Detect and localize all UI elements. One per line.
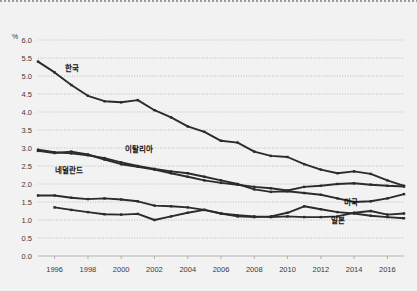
series-marker <box>386 179 388 181</box>
series-marker <box>220 212 222 214</box>
x-axis-tick-label: 1996 <box>46 265 63 274</box>
y-axis-tick-label: 1.0 <box>22 216 32 225</box>
series-marker <box>220 182 222 184</box>
series-label-japan: 일본 <box>331 215 345 225</box>
series-marker <box>203 131 205 133</box>
series-marker <box>220 140 222 142</box>
x-axis-tick-label: 2008 <box>246 265 263 274</box>
series-marker <box>187 125 189 127</box>
series-line <box>38 151 404 191</box>
series-marker <box>303 216 305 218</box>
series-marker <box>170 205 172 207</box>
series-line <box>38 150 404 202</box>
series-marker <box>103 158 105 160</box>
y-axis-tick-label: 5.0 <box>22 72 32 81</box>
line-chart-plot: 0.00.51.01.52.02.53.03.54.04.55.05.56.01… <box>0 0 417 291</box>
y-axis-tick-label: 6.0 <box>22 36 32 45</box>
chart-root: % 0.00.51.01.52.02.53.03.54.04.55.05.56.… <box>0 0 417 291</box>
series-marker <box>137 166 139 168</box>
series-marker <box>203 176 205 178</box>
series-marker <box>336 211 338 213</box>
series-marker <box>286 189 288 191</box>
series-marker <box>53 206 55 208</box>
series-marker <box>303 192 305 194</box>
series-marker <box>187 172 189 174</box>
x-axis-tick-label: 2014 <box>346 265 363 274</box>
series-marker <box>370 173 372 175</box>
series-marker <box>386 185 388 187</box>
series-marker <box>320 216 322 218</box>
series-marker <box>203 209 205 211</box>
series-label-united-states: 미국 <box>344 197 358 207</box>
x-axis-tick-label: 2016 <box>379 265 396 274</box>
series-marker <box>187 212 189 214</box>
series-marker <box>137 99 139 101</box>
series-marker <box>120 198 122 200</box>
series-marker <box>270 187 272 189</box>
series-marker <box>370 215 372 217</box>
series-marker <box>103 213 105 215</box>
series-marker <box>87 198 89 200</box>
series-marker <box>70 84 72 86</box>
series-line <box>38 62 404 186</box>
x-axis-tick-label: 2012 <box>312 265 329 274</box>
series-marker <box>370 184 372 186</box>
series-marker <box>320 194 322 196</box>
series-marker <box>403 212 405 214</box>
series-label-korea: 한국 <box>65 63 79 73</box>
series-marker <box>353 182 355 184</box>
series-marker <box>353 212 355 214</box>
series-marker <box>403 185 405 187</box>
y-axis-tick-label: 4.0 <box>22 108 32 117</box>
series-marker <box>87 153 89 155</box>
series-marker <box>370 200 372 202</box>
y-axis-tick-label: 2.5 <box>22 162 32 171</box>
series-marker <box>320 208 322 210</box>
series-marker <box>353 170 355 172</box>
series-marker <box>53 194 55 196</box>
series-marker <box>120 213 122 215</box>
series-marker <box>103 197 105 199</box>
y-axis-tick-label: 3.0 <box>22 144 32 153</box>
series-marker <box>303 186 305 188</box>
series-marker <box>253 150 255 152</box>
series-marker <box>153 168 155 170</box>
series-marker <box>270 191 272 193</box>
series-label-netherlands: 네덜란드 <box>55 165 83 175</box>
series-marker <box>37 60 39 62</box>
series-marker <box>137 213 139 215</box>
series-marker <box>253 216 255 218</box>
x-axis-tick-label: 2004 <box>179 265 196 274</box>
series-marker <box>153 204 155 206</box>
series-marker <box>386 216 388 218</box>
series-marker <box>320 185 322 187</box>
series-marker <box>87 211 89 213</box>
series-marker <box>370 210 372 212</box>
series-marker <box>203 179 205 181</box>
series-marker <box>153 109 155 111</box>
series-marker <box>187 206 189 208</box>
series-marker <box>403 217 405 219</box>
x-axis-tick-label: 2000 <box>113 265 130 274</box>
series-marker <box>270 155 272 157</box>
series-marker <box>270 215 272 217</box>
series-line <box>55 206 404 220</box>
series-marker <box>236 215 238 217</box>
series-marker <box>170 172 172 174</box>
y-axis-tick-label: 1.5 <box>22 198 32 207</box>
series-marker <box>236 141 238 143</box>
series-marker <box>170 215 172 217</box>
series-marker <box>303 205 305 207</box>
y-axis-tick-label: 5.5 <box>22 54 32 63</box>
series-marker <box>303 163 305 165</box>
series-marker <box>220 179 222 181</box>
series-marker <box>253 188 255 190</box>
series-marker <box>236 184 238 186</box>
series-marker <box>53 71 55 73</box>
series-marker <box>336 183 338 185</box>
series-marker <box>320 168 322 170</box>
series-marker <box>253 186 255 188</box>
series-marker <box>153 219 155 221</box>
y-axis-tick-label: 0.5 <box>22 234 32 243</box>
series-marker <box>286 156 288 158</box>
